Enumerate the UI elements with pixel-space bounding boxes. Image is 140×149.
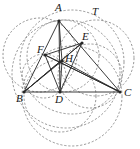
- geometry-figure: ATEFHBDC: [0, 0, 140, 149]
- diagram-canvas: [0, 0, 140, 149]
- label-F: F: [37, 44, 44, 55]
- label-B: B: [16, 93, 23, 104]
- label-A: A: [55, 2, 62, 13]
- label-T: T: [92, 6, 98, 17]
- label-E: E: [82, 31, 89, 42]
- circle-arc-T-through-A: [12, 20, 120, 128]
- label-C: C: [124, 87, 131, 98]
- label-H: H: [65, 53, 73, 64]
- label-D: D: [55, 94, 63, 105]
- point-H: [60, 59, 63, 62]
- circles-layer: [3, 10, 134, 146]
- point-A: [57, 19, 60, 22]
- point-C: [118, 90, 121, 93]
- segment-FC: [45, 55, 120, 92]
